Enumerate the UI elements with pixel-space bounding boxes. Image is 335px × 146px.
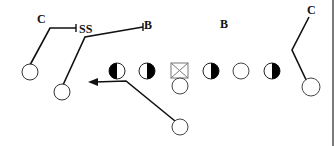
label-corner-right: C	[307, 3, 316, 17]
player-wr-left	[22, 64, 38, 80]
player-center	[171, 63, 188, 78]
label-strong-safety: SS	[79, 22, 93, 36]
label-backer-left: B	[144, 18, 152, 32]
player-wr-right	[302, 78, 320, 96]
label-backer-right: B	[220, 17, 228, 31]
player-rg	[203, 63, 219, 79]
player-te	[264, 63, 280, 79]
arrow-head-icon	[88, 78, 98, 86]
player-lt	[109, 63, 125, 79]
right-wr-route	[292, 17, 309, 86]
player-rt	[233, 63, 249, 79]
left-wr-route	[30, 24, 76, 65]
play-diagram-svg: C SS B B C	[0, 0, 335, 146]
player-slot-left	[54, 84, 70, 100]
player-rb	[172, 119, 188, 135]
player-qb	[172, 78, 188, 94]
rb-route	[88, 78, 175, 121]
play-diagram: C SS B B C	[0, 0, 335, 146]
label-corner-left: C	[37, 12, 46, 26]
slot-route	[63, 23, 143, 85]
player-lg	[139, 63, 155, 79]
